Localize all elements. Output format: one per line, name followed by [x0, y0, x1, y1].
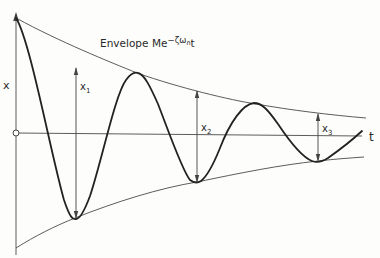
lower-envelope-curve	[16, 157, 364, 248]
envelope-expression-base: Me	[152, 37, 168, 49]
amplitude-x2	[195, 90, 199, 183]
damped-vibration-diagram: x t Envelope Me−ζωnt x1 x2 x3	[0, 0, 380, 258]
envelope-label: Envelope Me−ζωnt	[100, 35, 195, 49]
vertical-axis-label: x	[3, 79, 10, 92]
amplitude-x3	[316, 113, 320, 162]
amplitude-x3-label: x3	[322, 123, 332, 137]
arrowhead-up-icon	[74, 67, 78, 75]
arrowhead-up-icon	[316, 113, 320, 121]
upper-envelope-curve	[16, 18, 366, 118]
svg-text:Me−ζωnt: Me−ζωnt	[152, 35, 195, 49]
origin-circle-icon	[13, 130, 19, 136]
envelope-expression-tail: t	[191, 37, 195, 49]
time-axis-label: t	[369, 130, 374, 144]
envelope-word: Envelope	[100, 37, 148, 49]
amplitude-x1-label: x1	[80, 81, 90, 95]
amplitude-x1	[74, 67, 78, 219]
damped-response-curve	[16, 18, 362, 219]
envelope-expression-exponent: −ζω	[168, 35, 187, 45]
amplitude-x2-label: x2	[201, 122, 211, 136]
time-axis-line	[16, 133, 362, 136]
